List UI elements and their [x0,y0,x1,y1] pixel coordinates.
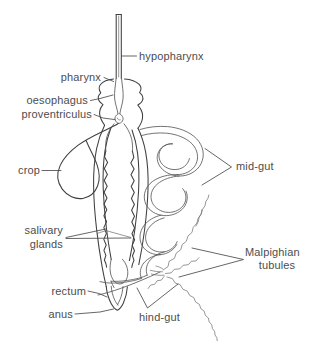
label-malpighian-tubules-line1: Malpighian [245,246,300,259]
label-crop: crop [0,164,40,177]
crop-organ [58,124,118,199]
anatomy-diagram-figure: hypopharynx pharynx oesophagus proventri… [0,0,318,341]
hypopharynx-organ [116,15,121,79]
label-pharynx: pharynx [0,71,101,84]
label-salivary-glands-line1: salivary [0,224,63,237]
leader-mid-gut [202,149,232,186]
leader-oesophagus [91,95,114,101]
leader-proventriculus [94,115,115,120]
label-salivary-glands-line2: glands [0,238,63,251]
leader-rectum [88,291,107,297]
leader-malpighian [179,248,244,277]
proventriculus-organ [115,114,123,124]
label-malpighian-tubules-line2: tubules [245,259,309,272]
label-hind-gut: hind-gut [139,311,180,324]
body-wall-outline [94,125,149,286]
label-anus: anus [0,308,73,321]
oesophagus-organ [115,79,124,114]
label-oesophagus: oesophagus [0,94,88,107]
label-proventriculus: proventriculus [0,108,92,121]
mid-gut-organ [140,126,203,278]
leader-anus [75,309,114,314]
pharynx-organ [98,79,143,128]
rectum-anus-organ [106,259,128,310]
label-mid-gut: mid-gut [236,160,274,173]
salivary-glands-organ [97,124,134,268]
leader-salivary-1 [66,229,106,238]
leader-salivary-2 [66,238,131,239]
label-rectum: rectum [0,285,86,298]
leader-hind-gut [137,284,178,308]
label-hypopharynx: hypopharynx [139,50,204,63]
